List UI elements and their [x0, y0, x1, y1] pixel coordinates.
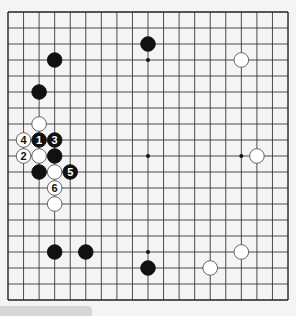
- move-number: 1: [36, 134, 42, 146]
- white-stone: [32, 149, 47, 164]
- black-stone: [141, 37, 156, 52]
- black-stone: [47, 149, 62, 164]
- white-stone: [234, 245, 249, 260]
- white-stone: [250, 149, 265, 164]
- caption-tab: [0, 306, 92, 316]
- star-point: [239, 154, 243, 158]
- black-stone: [141, 261, 156, 276]
- black-stone: [32, 165, 47, 180]
- white-stone: [32, 117, 47, 132]
- white-stone: [234, 53, 249, 68]
- move-number: 6: [52, 182, 58, 194]
- black-stone: 1: [32, 133, 47, 148]
- star-point: [146, 250, 150, 254]
- white-stone: 4: [16, 133, 31, 148]
- star-point: [146, 154, 150, 158]
- black-stone: [32, 85, 47, 100]
- white-stone: 2: [16, 149, 31, 164]
- black-stone: 5: [63, 165, 78, 180]
- move-number: 4: [20, 134, 27, 146]
- white-stone: [47, 165, 62, 180]
- white-stone: [47, 197, 62, 212]
- star-point: [146, 58, 150, 62]
- black-stone: [78, 245, 93, 260]
- white-stone: 6: [47, 181, 62, 196]
- move-number: 5: [67, 166, 73, 178]
- black-stone: [47, 53, 62, 68]
- move-number: 3: [52, 134, 58, 146]
- black-stone: [47, 245, 62, 260]
- black-stone: 3: [47, 133, 62, 148]
- go-board: 413256: [0, 0, 296, 306]
- white-stone: [203, 261, 218, 276]
- move-number: 2: [20, 150, 26, 162]
